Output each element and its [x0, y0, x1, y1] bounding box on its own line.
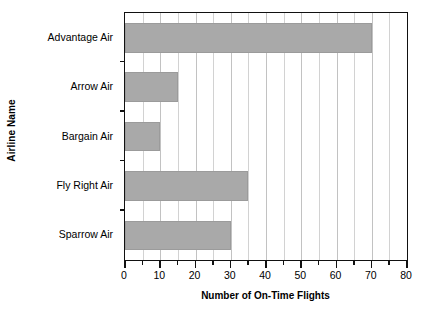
x-tick-label-20: 20: [189, 269, 201, 281]
x-tick-label-0: 0: [121, 269, 127, 281]
x-axis-tick-labels: 01020304050607080: [124, 269, 407, 285]
x-tick-label-30: 30: [224, 269, 236, 281]
y-axis-title-text: Airline Name: [6, 99, 17, 161]
x-tick-55: [318, 261, 320, 265]
x-tick-label-50: 50: [294, 269, 306, 281]
x-tick-label-60: 60: [330, 269, 342, 281]
x-tick-40: [265, 261, 267, 268]
x-tick-5: [142, 261, 144, 265]
bar-bargain-air[interactable]: [125, 122, 160, 152]
x-tick-70: [371, 261, 373, 268]
y-tick-label-arrow-air: Arrow Air: [24, 61, 120, 110]
bars-layer: [125, 13, 407, 260]
bar-slot: [125, 62, 407, 111]
x-tick-80: [406, 261, 408, 268]
bar-slot: [125, 112, 407, 161]
x-tick-65: [353, 261, 355, 265]
y-axis-tick-labels: Advantage Air Arrow Air Bargain Air Fly …: [24, 12, 120, 259]
bar-chart: Airline Name Advantage Air Arrow Air Bar…: [0, 0, 426, 319]
plot-area: [124, 12, 408, 261]
y-tick-label-fly-right-air: Fly Right Air: [24, 160, 120, 209]
bar-slot: [125, 211, 407, 260]
x-tick-10: [159, 261, 161, 268]
x-tick-20: [195, 261, 197, 268]
y-tick-label-bargain-air: Bargain Air: [24, 111, 120, 160]
x-tick-25: [212, 261, 214, 265]
x-tick-0: [124, 261, 126, 268]
bar-slot: [125, 13, 407, 62]
x-tick-label-70: 70: [365, 269, 377, 281]
x-tick-label-40: 40: [259, 269, 271, 281]
x-tick-15: [177, 261, 179, 265]
x-tick-75: [388, 261, 390, 265]
x-axis-tick-marks: [124, 261, 407, 269]
x-tick-60: [336, 261, 338, 268]
x-axis-title: Number of On-Time Flights: [124, 290, 407, 301]
bar-sparrow-air[interactable]: [125, 221, 231, 251]
bar-advantage-air[interactable]: [125, 23, 372, 53]
x-tick-50: [300, 261, 302, 268]
x-tick-label-80: 80: [400, 269, 412, 281]
y-tick-label-advantage-air: Advantage Air: [24, 12, 120, 61]
y-tick-label-sparrow-air: Sparrow Air: [24, 210, 120, 259]
x-tick-30: [230, 261, 232, 268]
bar-arrow-air[interactable]: [125, 72, 178, 102]
y-axis-title: Airline Name: [0, 0, 22, 260]
bar-slot: [125, 161, 407, 210]
x-tick-label-10: 10: [153, 269, 165, 281]
bar-fly-right-air[interactable]: [125, 171, 248, 201]
x-tick-35: [247, 261, 249, 265]
x-tick-45: [283, 261, 285, 265]
